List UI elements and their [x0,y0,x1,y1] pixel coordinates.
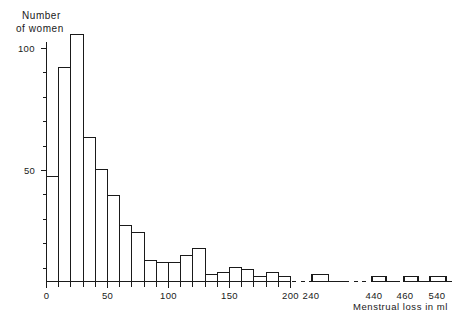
y-tick-label-100: 100 [18,43,35,54]
histogram-bar [47,177,59,282]
histogram-bar [193,249,205,282]
histogram-bar [95,170,107,282]
chart-title-line-1: Number [22,10,61,21]
histogram-bar [59,67,71,281]
histogram-bar [205,275,217,282]
x-tick-label-50: 50 [102,290,113,301]
histogram-bar [144,261,156,282]
x-axis-ticks [47,282,291,289]
x-tick-label-440: 440 [366,290,383,301]
x-tick-label-540: 540 [429,290,446,301]
chart-title-line-2: of women [16,23,64,34]
y-tick-label-50: 50 [24,165,35,176]
x-tick-label-100: 100 [160,290,177,301]
histogram-bars-main [47,35,291,282]
histogram-bar [242,270,254,282]
histogram-bar [278,277,290,282]
x-tick-label-460: 460 [397,290,414,301]
histogram-figure: Number of women 100 50 [0,0,472,317]
x-tick-label-240: 240 [303,290,320,301]
histogram-bar [71,35,83,282]
histogram-bar-outlier [372,277,386,282]
histogram-bar [266,272,278,281]
histogram-bars-outliers [312,275,446,282]
histogram-bar-outlier [430,277,446,282]
x-axis-title: Menstrual loss in ml [353,301,448,312]
histogram-bar [108,195,120,281]
histogram-bar [217,272,229,281]
histogram-bar [230,268,242,282]
histogram-bar-outlier [404,277,418,282]
histogram-bar [83,137,95,281]
histogram-bar [181,256,193,282]
histogram-bar-outlier [312,275,329,282]
histogram-chart: Number of women 100 50 [0,0,472,317]
x-tick-label-0: 0 [44,290,50,301]
histogram-bar [132,233,144,282]
histogram-bar [156,263,168,282]
histogram-bar [169,263,181,282]
histogram-bar [120,226,132,282]
histogram-bar [254,277,266,282]
x-tick-label-150: 150 [221,290,238,301]
x-tick-label-200: 200 [282,290,299,301]
y-axis-major-ticks [41,49,47,171]
